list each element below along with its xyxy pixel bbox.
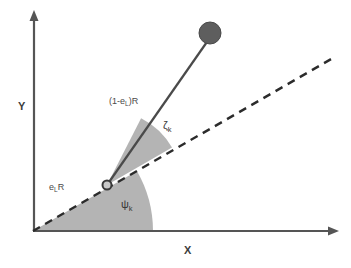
pivot-node-circle [103, 181, 112, 190]
y-axis-label: Y [18, 101, 25, 112]
inner-length-subscript: L [54, 186, 58, 193]
diagram-canvas [0, 0, 351, 268]
psi-angle-label: ψk [121, 199, 133, 210]
y-axis-arrowhead [30, 10, 39, 21]
zeta-angle-label: ζk [163, 120, 172, 131]
outer-length-subscript: L [125, 100, 129, 107]
inner-length-label: eLR [49, 183, 64, 192]
psi-subscript: k [129, 204, 133, 213]
pendulum-rod [107, 39, 209, 185]
zeta-subscript: k [168, 125, 172, 134]
mass-bob-circle [199, 22, 221, 44]
x-axis-arrowhead [328, 227, 339, 236]
outer-length-label: (1-eL)R [109, 97, 138, 106]
outer-length-prefix: (1-e [109, 96, 125, 106]
psi-symbol: ψ [121, 198, 129, 210]
inner-length-suffix: R [58, 182, 65, 192]
x-axis-label: X [184, 245, 191, 256]
outer-length-suffix: )R [129, 96, 139, 106]
geometry-diagram: Y X (1-eL)R eLR ζk ψk [0, 0, 351, 268]
